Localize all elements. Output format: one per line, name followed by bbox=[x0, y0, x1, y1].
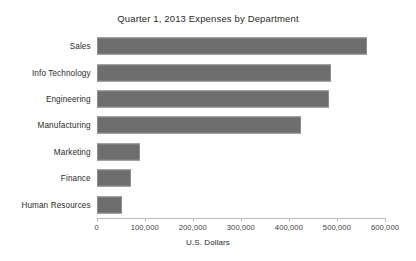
chart-row: Marketing bbox=[97, 139, 385, 165]
chart-row: Human Resources bbox=[97, 192, 385, 218]
x-axis-tick-label: 200,000 bbox=[179, 223, 207, 232]
x-axis-tick-label: 500,000 bbox=[323, 223, 351, 232]
x-axis-tick-label: 0 bbox=[95, 223, 99, 232]
x-axis-tick bbox=[193, 218, 194, 222]
x-axis-tick bbox=[145, 218, 146, 222]
bar-finance[interactable] bbox=[97, 170, 131, 187]
plot-area: Sales Info Technology Engineering Manufa… bbox=[97, 33, 385, 218]
x-axis-tick bbox=[289, 218, 290, 222]
x-axis-tick-label: 400,000 bbox=[275, 223, 303, 232]
bar-manufacturing[interactable] bbox=[97, 117, 301, 134]
category-label-info-technology: Info Technology bbox=[32, 68, 91, 77]
chart-row: Engineering bbox=[97, 86, 385, 112]
category-label-engineering: Engineering bbox=[46, 95, 91, 104]
category-label-sales: Sales bbox=[70, 42, 91, 51]
x-axis-tick bbox=[337, 218, 338, 222]
x-axis-tick bbox=[241, 218, 242, 222]
x-axis-tick-label: 600,000 bbox=[371, 223, 399, 232]
chart-row: Sales bbox=[97, 33, 385, 59]
bar-sales[interactable] bbox=[97, 38, 367, 55]
bar-info-technology[interactable] bbox=[97, 64, 331, 81]
x-axis-tick bbox=[97, 218, 98, 222]
bar-chart: Quarter 1, 2013 Expenses by Department S… bbox=[0, 0, 416, 261]
x-axis-tick bbox=[385, 218, 386, 222]
bar-engineering[interactable] bbox=[97, 91, 330, 108]
category-label-finance: Finance bbox=[61, 174, 91, 183]
x-axis-title: U.S. Dollars bbox=[0, 238, 416, 247]
chart-row: Manufacturing bbox=[97, 112, 385, 138]
x-axis-tick-label: 100,000 bbox=[131, 223, 159, 232]
bar-human-resources[interactable] bbox=[97, 196, 122, 213]
chart-title: Quarter 1, 2013 Expenses by Department bbox=[0, 13, 416, 24]
chart-row: Finance bbox=[97, 165, 385, 191]
category-label-human-resources: Human Resources bbox=[21, 200, 90, 209]
chart-row: Info Technology bbox=[97, 59, 385, 85]
category-label-manufacturing: Manufacturing bbox=[38, 121, 91, 130]
category-label-marketing: Marketing bbox=[54, 147, 91, 156]
bar-marketing[interactable] bbox=[97, 143, 140, 160]
x-axis-tick-label: 300,000 bbox=[227, 223, 255, 232]
